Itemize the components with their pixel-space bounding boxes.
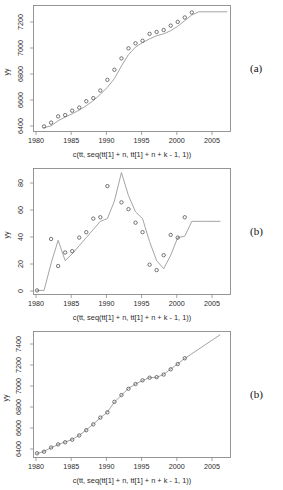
panel-a-xtick-5: 2005 <box>204 136 220 145</box>
data-point <box>162 28 165 31</box>
panel-a-letter: (a) <box>250 62 262 74</box>
data-point <box>127 47 130 50</box>
data-point <box>176 20 179 23</box>
panel-b1-ytick-3: 60 <box>16 206 25 214</box>
data-point <box>183 16 186 19</box>
panel-b1-ytick-1: 20 <box>16 260 25 268</box>
data-point <box>183 216 186 219</box>
panel-b2-series-points <box>35 357 186 455</box>
data-point <box>155 30 158 33</box>
panel-b2-xtick-4: 2000 <box>169 462 185 471</box>
panel-b1-series-points <box>35 184 186 292</box>
data-point <box>92 217 95 220</box>
panel-b1-xlabel: c(tt, seq(tt[1] + n, tt[1] + n + k - 1, … <box>73 313 192 322</box>
data-point <box>99 216 102 219</box>
data-point <box>85 230 88 233</box>
panel-b2-xlabel: c(tt, seq(tt[1] + n, tt[1] + n + k - 1, … <box>73 476 192 485</box>
panel-b2-ytick-4: 7200 <box>14 357 23 373</box>
panel-a-plot: yy 6400 6600 6800 7000 7200 1980 1985 19… <box>0 0 283 163</box>
panel-b1-xtick-5: 2005 <box>204 299 220 308</box>
panel-b2: yy 6400 6600 6800 7000 7200 7400 1980 19… <box>0 326 283 490</box>
data-point <box>78 106 81 109</box>
data-point <box>148 32 151 35</box>
panel-b1-letter: (b) <box>250 225 263 237</box>
panel-b1-xtick-0: 1980 <box>28 299 44 308</box>
panel-a-ylabel: yy <box>2 68 11 76</box>
data-point <box>71 249 74 252</box>
data-point <box>155 268 158 271</box>
panel-b1-series-line <box>37 173 220 291</box>
panel-a-ytick-1: 6600 <box>16 92 25 108</box>
panel-b1-xtick-3: 1995 <box>134 299 150 308</box>
data-point <box>141 39 144 42</box>
panel-b1-plot: yy 0 20 40 60 80 1980 1985 1990 1995 200… <box>0 163 283 326</box>
panel-a-xtick-0: 1980 <box>28 136 44 145</box>
panel-b2-xtick-1: 1985 <box>63 462 79 471</box>
panel-a-xtick-3: 1995 <box>134 136 150 145</box>
data-point <box>190 11 193 14</box>
panel-a-ytick-0: 6400 <box>16 118 25 134</box>
panel-a-xtick-4: 2000 <box>169 136 185 145</box>
panel-a: yy 6400 6600 6800 7000 7200 1980 1985 19… <box>0 0 283 163</box>
panel-a-series-line <box>44 12 227 128</box>
panel-b2-ylabel: yy <box>1 394 10 402</box>
data-point <box>106 184 109 187</box>
panel-a-xtick-2: 1990 <box>98 136 114 145</box>
data-point <box>134 221 137 224</box>
panel-b1-xtick-2: 1990 <box>98 299 114 308</box>
panel-a-frame <box>34 6 231 132</box>
panel-b2-xtick-3: 1995 <box>134 462 150 471</box>
data-point <box>99 89 102 92</box>
panel-b2-ytick-5: 7400 <box>14 336 23 352</box>
panel-b1-ytick-2: 40 <box>16 233 25 241</box>
panel-b1-ytick-4: 80 <box>16 179 25 187</box>
data-point <box>85 100 88 103</box>
panel-b2-ytick-3: 7000 <box>14 378 23 394</box>
panel-b2-xtick-0: 1980 <box>28 462 44 471</box>
data-point <box>120 201 123 204</box>
panel-b1-xtick-1: 1985 <box>63 299 79 308</box>
panel-b1: yy 0 20 40 60 80 1980 1985 1990 1995 200… <box>0 163 283 326</box>
data-point <box>169 233 172 236</box>
panel-b2-xtick-5: 2005 <box>204 462 220 471</box>
panel-a-ytick-4: 7200 <box>16 14 25 30</box>
data-point <box>78 236 81 239</box>
data-point <box>49 237 52 240</box>
data-point <box>49 121 52 124</box>
data-point <box>92 96 95 99</box>
data-point <box>63 251 66 254</box>
panel-a-series-points <box>42 11 193 128</box>
data-point <box>169 24 172 27</box>
data-point <box>106 78 109 81</box>
panel-b1-fitted-path <box>37 173 220 291</box>
panel-b2-ytick-0: 6400 <box>14 441 23 457</box>
panel-b2-fitted-path <box>37 335 220 454</box>
panel-b2-frame <box>34 332 231 458</box>
panel-a-xlabel: c(tt, seq(tt[1] + n, tt[1] + n + k - 1, … <box>73 150 192 159</box>
panel-a-xtick-1: 1985 <box>63 136 79 145</box>
data-point <box>56 264 59 267</box>
panel-b1-ytick-0: 0 <box>16 289 25 293</box>
data-point <box>56 115 59 118</box>
panel-b2-xtick-2: 1990 <box>98 462 114 471</box>
panel-b1-ylabel: yy <box>2 231 11 239</box>
panel-b2-ytick-1: 6600 <box>14 420 23 436</box>
panel-b1-frame <box>34 169 231 295</box>
panel-b2-series-line <box>37 335 220 454</box>
panel-b2-letter: (b) <box>250 388 263 400</box>
data-point <box>120 57 123 60</box>
panel-a-ytick-3: 7000 <box>16 40 25 56</box>
data-point <box>134 42 137 45</box>
data-point <box>63 113 66 116</box>
panel-b1-xtick-4: 2000 <box>169 299 185 308</box>
data-point <box>148 263 151 266</box>
data-point <box>127 207 130 210</box>
data-point <box>141 230 144 233</box>
data-point <box>162 254 165 257</box>
data-point <box>71 109 74 112</box>
panel-b2-plot: yy 6400 6600 6800 7000 7200 7400 1980 19… <box>0 326 283 490</box>
panel-a-fitted-path <box>44 12 227 128</box>
data-point <box>113 68 116 71</box>
panel-b2-ytick-2: 6800 <box>14 399 23 415</box>
panel-a-ytick-2: 6800 <box>16 66 25 82</box>
